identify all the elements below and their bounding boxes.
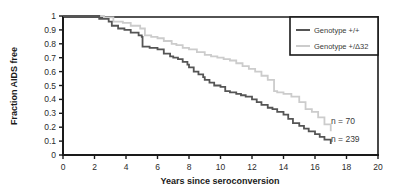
- annotation-n-239: n = 239: [331, 134, 360, 144]
- annotation-n-70: n = 70: [331, 116, 355, 126]
- x-axis-title: Years since seroconversion: [160, 176, 279, 186]
- x-tick-label: 12: [247, 162, 257, 172]
- y-tick-label: 0.6: [44, 67, 56, 77]
- y-tick-label: 0.7: [44, 53, 56, 63]
- y-tick-label: 1: [51, 11, 56, 21]
- y-tick-label: 0.2: [44, 122, 56, 132]
- y-axis-title: Fraction AIDS free: [9, 47, 19, 125]
- x-tick-label: 16: [310, 162, 320, 172]
- legend-label: Genotype +/+: [314, 26, 360, 35]
- x-tick-label: 14: [279, 162, 289, 172]
- x-tick-label: 8: [187, 162, 192, 172]
- y-tick-label: 0.8: [44, 39, 56, 49]
- x-tick-label: 4: [124, 162, 129, 172]
- y-tick-label: 0.5: [44, 81, 56, 91]
- x-tick-label: 0: [61, 162, 66, 172]
- x-tick-label: 20: [373, 162, 383, 172]
- x-tick-label: 6: [155, 162, 160, 172]
- x-tick-label: 2: [92, 162, 97, 172]
- survival-curve-chart: Fraction AIDS free Years since seroconve…: [0, 0, 401, 191]
- y-tick-label: 0.1: [44, 136, 56, 146]
- legend-label: Genotype +/Δ32: [314, 42, 368, 51]
- y-tick-label: 0: [51, 150, 56, 160]
- x-tick-label: 10: [216, 162, 226, 172]
- chart-figure: Fraction AIDS free Years since seroconve…: [0, 0, 401, 191]
- y-tick-label: 0.4: [44, 94, 56, 104]
- y-tick-label: 0.9: [44, 25, 56, 35]
- y-tick-label: 0.3: [44, 108, 56, 118]
- x-tick-label: 18: [342, 162, 352, 172]
